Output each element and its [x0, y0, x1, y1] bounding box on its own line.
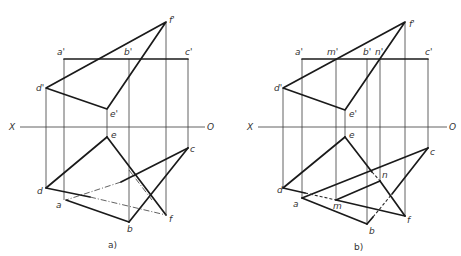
orthographic-projection-figure: X O a' b' c	[0, 0, 461, 256]
label-d: d	[277, 185, 283, 195]
label-e: e	[349, 130, 355, 140]
label-e-prime: e'	[349, 109, 357, 119]
triangle-def-front-view-b	[283, 22, 405, 110]
label-b-prime: b'	[124, 47, 132, 57]
axis-x-label-b: X	[246, 122, 254, 132]
caption-a: a)	[108, 240, 117, 250]
label-e: e	[111, 130, 117, 140]
axis-o-label-a: O	[207, 122, 214, 132]
label-c: c	[430, 147, 435, 157]
axis-x-label-a: X	[8, 122, 16, 132]
label-b-prime: b'	[363, 47, 371, 57]
label-b: b	[127, 224, 133, 234]
label-f-prime: f'	[409, 19, 415, 29]
label-m: m	[333, 201, 342, 211]
label-c-prime: c'	[425, 47, 432, 57]
top-view-b	[283, 137, 428, 224]
label-d: d	[37, 186, 43, 196]
label-a-prime: a'	[295, 47, 303, 57]
label-f-prime: f'	[169, 15, 175, 25]
label-a-prime: a'	[57, 47, 65, 57]
axis-o-label-b: O	[449, 122, 456, 132]
top-view-a	[46, 137, 188, 222]
caption-b: b)	[354, 242, 363, 252]
label-n-prime: n'	[375, 47, 383, 57]
label-f: f	[169, 214, 174, 224]
label-c: c	[190, 144, 195, 154]
label-f: f	[407, 215, 412, 225]
label-c-prime: c'	[185, 47, 192, 57]
intersection-line-mn	[336, 181, 380, 200]
label-e-prime: e'	[110, 109, 118, 119]
figure-a: X O a' b' c	[8, 15, 214, 250]
label-a: a	[293, 199, 299, 209]
label-d-prime: d'	[36, 83, 44, 93]
label-d-prime: d'	[274, 83, 282, 93]
figure-b: X O	[246, 19, 456, 252]
label-b: b	[369, 226, 375, 236]
label-n: n	[382, 170, 388, 180]
label-a: a	[56, 200, 62, 210]
label-m-prime: m'	[327, 47, 338, 57]
